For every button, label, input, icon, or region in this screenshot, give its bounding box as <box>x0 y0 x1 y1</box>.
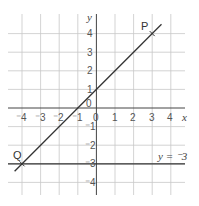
y-tick-minus-4: ⁻4 <box>85 177 96 188</box>
coordinate-graph: y x 4 3 2 1 0 ⁻1 ⁻2 ⁻3 ⁻4 ⁻4 ⁻3 ⁻2 ⁻1 0 … <box>0 0 199 206</box>
x-axis-label: x <box>181 111 187 123</box>
y-tick-1: 1 <box>87 84 93 95</box>
y-tick-4: 4 <box>87 28 93 39</box>
point-p-label: P <box>141 20 148 32</box>
x-tick-0: 0 <box>93 112 99 123</box>
x-tick-1: 1 <box>112 112 118 123</box>
point-q-label: Q <box>13 149 22 161</box>
x-tick-2: 2 <box>130 112 136 123</box>
x-tick-minus-4: ⁻4 <box>16 112 27 123</box>
y-tick-2: 2 <box>87 65 93 76</box>
x-tick-minus-2: ⁻2 <box>53 112 64 123</box>
y-tick-minus-2: ⁻2 <box>85 140 96 151</box>
line-equation-label: y = ⁻3 <box>157 150 188 162</box>
y-tick-minus-3: ⁻3 <box>85 158 96 169</box>
x-tick-minus-3: ⁻3 <box>35 112 46 123</box>
x-tick-4: 4 <box>167 112 173 123</box>
x-tick-3: 3 <box>149 112 155 123</box>
y-tick-3: 3 <box>87 47 93 58</box>
y-axis-label: y <box>86 11 92 23</box>
x-tick-minus-1: ⁻1 <box>72 112 83 123</box>
y-tick-origin: 0 <box>86 98 92 109</box>
